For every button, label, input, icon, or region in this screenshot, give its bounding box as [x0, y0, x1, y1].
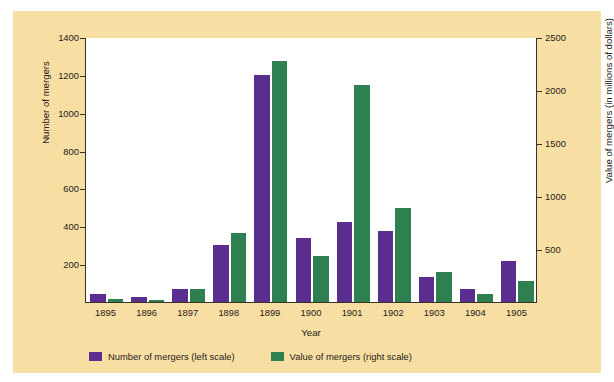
- y-axis-label-right: Value of mergers (in millions of dollars…: [603, 0, 614, 216]
- bar-number-of-mergers: [337, 222, 353, 302]
- chart-panel: 200400600800100012001400 500100015002000…: [13, 11, 601, 373]
- bar-number-of-mergers: [296, 238, 312, 302]
- y-tick-label-left: 800: [63, 147, 79, 156]
- x-tick-label: 1896: [136, 307, 157, 318]
- x-tick-label: 1904: [465, 307, 486, 318]
- plot-frame: [85, 38, 537, 303]
- bar-value-of-mergers: [436, 272, 452, 302]
- x-tick-label: 1898: [218, 307, 239, 318]
- legend-label: Value of mergers (right scale): [290, 351, 412, 362]
- y-axis-tick-right: [536, 91, 542, 92]
- bar-number-of-mergers: [172, 289, 188, 302]
- bar-value-of-mergers: [477, 294, 493, 302]
- y-tick-label-right: 2500: [545, 33, 566, 42]
- bar-value-of-mergers: [518, 281, 534, 302]
- bar-number-of-mergers: [254, 75, 270, 302]
- bar-value-of-mergers: [190, 289, 206, 302]
- y-tick-label-left: 1400: [58, 33, 79, 42]
- x-tick-label: 1905: [506, 307, 527, 318]
- y-axis-label-left: Number of mergers: [40, 23, 51, 183]
- legend-entry: Number of mergers (left scale): [89, 351, 235, 362]
- y-tick-label-right: 1500: [545, 139, 566, 148]
- right-axis-tick-labels: 5001000150020002500: [545, 38, 589, 303]
- x-tick-label: 1902: [383, 307, 404, 318]
- x-tick-label: 1897: [177, 307, 198, 318]
- x-tick-label: 1900: [301, 307, 322, 318]
- legend-entry: Value of mergers (right scale): [271, 351, 412, 362]
- y-tick-label-right: 500: [545, 245, 561, 254]
- y-tick-label-left: 1000: [58, 109, 79, 118]
- y-tick-label-left: 200: [63, 260, 79, 269]
- y-tick-label-right: 2000: [545, 86, 566, 95]
- bar-number-of-mergers: [501, 261, 517, 302]
- y-axis-tick-right: [536, 197, 542, 198]
- y-axis-tick-right: [536, 250, 542, 251]
- bar-value-of-mergers: [149, 300, 165, 302]
- x-tick-label: 1903: [424, 307, 445, 318]
- x-axis-tick-labels: 1895189618971898189919001901190219031904…: [85, 307, 537, 321]
- bar-number-of-mergers: [419, 277, 435, 302]
- bar-value-of-mergers: [272, 61, 288, 302]
- bar-value-of-mergers: [395, 208, 411, 302]
- bar-number-of-mergers: [90, 294, 106, 302]
- bar-number-of-mergers: [460, 289, 476, 302]
- y-axis-tick-left: [80, 227, 86, 228]
- legend-swatch-number-of-mergers: [89, 352, 102, 361]
- plot-area: [86, 38, 536, 302]
- legend-swatch-value-of-mergers: [271, 352, 284, 361]
- x-tick-label: 1899: [259, 307, 280, 318]
- bar-number-of-mergers: [378, 231, 394, 302]
- chart-legend: Number of mergers (left scale)Value of m…: [89, 349, 448, 363]
- x-tick-label: 1895: [95, 307, 116, 318]
- y-axis-tick-left: [80, 189, 86, 190]
- legend-label: Number of mergers (left scale): [108, 351, 235, 362]
- bar-value-of-mergers: [108, 299, 124, 302]
- y-axis-tick-left: [80, 76, 86, 77]
- y-axis-tick-right: [536, 144, 542, 145]
- y-tick-label-left: 400: [63, 223, 79, 232]
- y-axis-tick-right: [536, 38, 542, 39]
- bar-number-of-mergers: [213, 245, 229, 302]
- x-tick-label: 1901: [342, 307, 363, 318]
- x-axis-label: Year: [85, 327, 537, 338]
- y-tick-label-left: 600: [63, 185, 79, 194]
- bar-value-of-mergers: [231, 233, 247, 302]
- y-tick-label-right: 1000: [545, 192, 566, 201]
- y-axis-tick-left: [80, 265, 86, 266]
- y-axis-tick-left: [80, 38, 86, 39]
- bar-value-of-mergers: [354, 85, 370, 302]
- bar-number-of-mergers: [131, 297, 147, 302]
- y-axis-tick-left: [80, 152, 86, 153]
- y-tick-label-left: 1200: [58, 71, 79, 80]
- y-axis-tick-left: [80, 114, 86, 115]
- bar-value-of-mergers: [313, 256, 329, 302]
